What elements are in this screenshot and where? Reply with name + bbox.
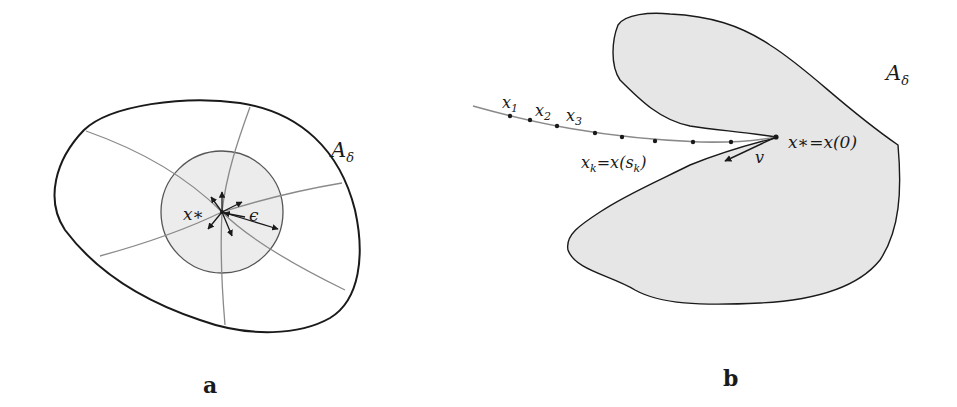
x-star-label: x∗ [183, 204, 204, 224]
epsilon-label: ϵ [249, 205, 259, 225]
figure: x∗ ϵ Aδ a x1 x2 [0, 0, 957, 407]
x-star-point [220, 210, 224, 214]
caption-b: b [723, 365, 738, 391]
label-xk: xk=x(sk) [581, 153, 647, 175]
caption-a: a [203, 372, 217, 398]
label-x2: x2 [535, 101, 551, 123]
label-x3: x3 [566, 106, 582, 128]
label-x-star-limit: x∗=x(0) [788, 132, 857, 152]
region-label-a: Aδ [329, 138, 354, 165]
panel-b: x1 x2 x3 xk=x(sk) v x∗=x(0) Aδ b [473, 13, 909, 391]
label-v: v [755, 148, 764, 167]
panel-a: x∗ ϵ Aδ a [55, 100, 360, 398]
region-label-b: Aδ [884, 61, 909, 88]
label-x1: x1 [502, 93, 518, 115]
